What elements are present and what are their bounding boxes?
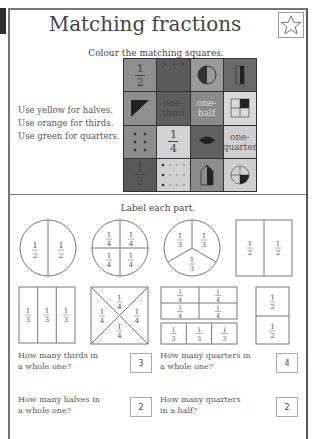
svg-text:4: 4 (129, 261, 134, 269)
rule-halves: Use yellow for halves. (18, 104, 120, 117)
svg-text:4: 4 (107, 261, 112, 269)
svg-text:4: 4 (117, 332, 122, 340)
matching-grid: 12 one-third one-half 14 (123, 58, 257, 192)
svg-text:1: 1 (197, 326, 201, 334)
svg-text:1: 1 (270, 294, 274, 302)
rule-quarters: Use green for quarters. (18, 130, 120, 143)
svg-text:3: 3 (222, 335, 226, 343)
svg-text:1: 1 (178, 304, 182, 312)
square-diagonal-quarters-shape: 14 14 14 14 (90, 286, 150, 346)
svg-text:3: 3 (26, 316, 30, 324)
svg-text:1: 1 (45, 307, 49, 315)
svg-text:4: 4 (216, 312, 220, 320)
rect-vertical-halves-shape: 12 12 (255, 286, 291, 346)
svg-text:2: 2 (58, 251, 63, 260)
grid-cell-dots-six[interactable] (124, 126, 156, 158)
page-edge-tab (0, 8, 6, 34)
grid-cell-half-circle[interactable] (191, 59, 223, 91)
svg-text:2: 2 (276, 249, 280, 257)
svg-text:1: 1 (100, 308, 104, 316)
question-quarters-half: How many quarters in a half? (160, 394, 241, 416)
svg-text:1: 1 (216, 304, 220, 312)
svg-text:3: 3 (190, 265, 194, 273)
grid-cell-word-one-half[interactable]: one-half (191, 92, 223, 124)
grid-cell-dots-dark[interactable] (157, 59, 189, 91)
svg-text:1: 1 (135, 308, 139, 316)
colour-instruction: Colour the matching squares. (10, 48, 302, 58)
svg-text:1: 1 (107, 252, 111, 260)
svg-text:1: 1 (171, 326, 175, 334)
svg-text:1: 1 (248, 240, 252, 248)
rect-thirds-shape: 13 13 13 (18, 286, 78, 346)
rect-halves-shape: 12 12 (234, 218, 294, 278)
svg-text:1: 1 (202, 232, 206, 240)
circle-halves-shape: 12 12 (18, 218, 78, 278)
grid-cell-house[interactable] (191, 159, 223, 191)
svg-text:3: 3 (178, 241, 182, 249)
svg-text:3: 3 (202, 241, 206, 249)
svg-text:4: 4 (117, 303, 122, 311)
svg-text:2: 2 (270, 332, 274, 340)
label-instruction: Label each part. (10, 203, 306, 213)
grid-cell-word-one-quarter[interactable]: one-quarter (224, 126, 256, 158)
question-halves: How many halves in a whole one? (18, 394, 100, 416)
grid-cell-half-bar[interactable] (224, 59, 256, 91)
svg-text:1: 1 (107, 231, 111, 239)
answer-thirds-box[interactable]: 3 (130, 353, 152, 373)
rule-thirds: Use orange for thirds. (18, 117, 120, 130)
svg-text:2: 2 (248, 249, 252, 257)
svg-text:1: 1 (129, 231, 133, 239)
worksheet-page: Matching fractions Colour the matching s… (8, 8, 308, 439)
svg-text:4: 4 (178, 312, 182, 320)
circle-quarters-shape: 14 14 14 14 (90, 218, 150, 278)
rect-quarters-and-thirds-shape: 14 14 14 14 13 13 13 (160, 286, 240, 346)
section-divider (10, 194, 306, 195)
svg-text:1: 1 (190, 256, 194, 264)
answer-halves-box[interactable]: 2 (130, 397, 152, 417)
svg-text:1: 1 (222, 326, 226, 334)
svg-text:1: 1 (58, 241, 63, 250)
star-icon (278, 12, 304, 38)
grid-cell-dots-twelve[interactable] (157, 159, 189, 191)
svg-text:2: 2 (270, 303, 274, 311)
grid-cell-quarter-circle[interactable] (224, 159, 256, 191)
grid-cell-fraction-half[interactable]: 12 (124, 59, 156, 91)
answer-quarters-whole-box[interactable]: 4 (276, 353, 298, 373)
page-title: Matching fractions (10, 12, 280, 36)
grid-cell-fraction-third[interactable]: 13 (124, 159, 156, 191)
grid-cell-fraction-quarter[interactable]: 14 (157, 126, 189, 158)
grid-cell-leaf[interactable] (191, 126, 223, 158)
svg-text:3: 3 (45, 316, 49, 324)
svg-text:4: 4 (216, 296, 220, 304)
svg-text:1: 1 (32, 241, 37, 250)
grid-cell-triangle[interactable] (124, 92, 156, 124)
svg-text:2: 2 (32, 251, 37, 260)
svg-text:4: 4 (107, 240, 112, 248)
svg-text:3: 3 (64, 316, 68, 324)
grid-cell-word-one-third[interactable]: one-third (157, 92, 189, 124)
svg-text:1: 1 (117, 323, 121, 331)
svg-text:4: 4 (178, 296, 182, 304)
grid-cell-quarter-square[interactable] (224, 92, 256, 124)
svg-text:4: 4 (135, 317, 140, 325)
question-thirds: How many thirds in a whole one? (18, 350, 98, 372)
colour-rules: Use yellow for halves. Use orange for th… (18, 104, 120, 143)
svg-text:1: 1 (178, 288, 182, 296)
svg-text:1: 1 (117, 294, 121, 302)
svg-text:1: 1 (216, 288, 220, 296)
svg-text:1: 1 (270, 323, 274, 331)
svg-text:1: 1 (26, 307, 30, 315)
svg-text:3: 3 (197, 335, 201, 343)
svg-text:1: 1 (64, 307, 68, 315)
circle-thirds-shape: 13 13 13 (162, 218, 222, 278)
svg-text:4: 4 (100, 317, 105, 325)
svg-text:4: 4 (129, 240, 134, 248)
answer-quarters-half-box[interactable]: 2 (276, 397, 298, 417)
svg-text:1: 1 (129, 252, 133, 260)
question-quarters-whole: How many quarters in a whole one? (160, 350, 251, 372)
svg-text:1: 1 (276, 240, 280, 248)
svg-text:3: 3 (171, 335, 175, 343)
svg-text:1: 1 (178, 232, 182, 240)
